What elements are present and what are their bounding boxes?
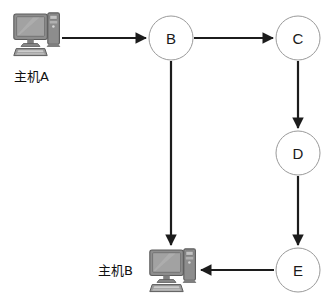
host-b[interactable]: 主机B [98, 249, 196, 292]
node-e-label: E [293, 262, 303, 279]
node-d[interactable]: D [276, 131, 320, 175]
node-e[interactable]: E [276, 248, 320, 292]
node-d-label: D [293, 145, 304, 162]
host-a-label: 主机A [14, 69, 49, 84]
desktop-computer-icon [14, 13, 61, 56]
node-b-label: B [166, 30, 176, 47]
node-c[interactable]: C [276, 16, 320, 60]
host-b-label: 主机B [98, 263, 133, 278]
network-path-diagram: 主机A 主机B B C D E [0, 0, 333, 305]
node-b[interactable]: B [149, 16, 193, 60]
desktop-computer-icon [150, 249, 197, 292]
node-c-label: C [293, 30, 304, 47]
host-a[interactable]: 主机A [14, 13, 61, 84]
